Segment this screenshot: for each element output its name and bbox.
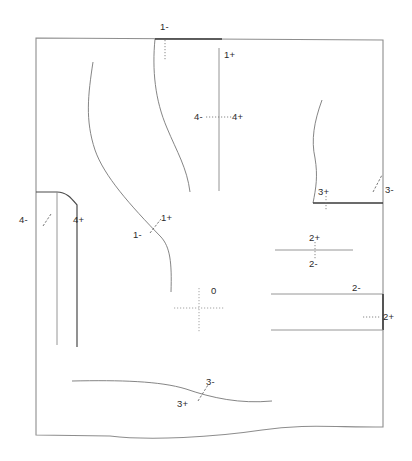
label-inner-1-plus: 1+ <box>161 213 172 223</box>
label-inner-1-minus: 1- <box>133 230 142 240</box>
label-bottom-3-plus: 3+ <box>177 399 188 409</box>
label-left-4-minus: 4- <box>19 215 28 225</box>
right-3-minus-tick-icon <box>373 175 382 192</box>
label-right-2-minus: 2- <box>309 259 318 269</box>
technical-diagram: 1- 1+ 4- 4+ 4- 4+ 1- 1+ 3+ 3- 2+ 2- 2- 2… <box>0 0 412 461</box>
bottom-wave-curve <box>72 381 272 402</box>
label-mid-4-plus: 4+ <box>232 112 243 122</box>
label-low-2-plus: 2+ <box>383 312 394 322</box>
left-s-curve <box>88 62 171 292</box>
diagram-canvas <box>0 0 412 461</box>
label-right-3-minus: 3- <box>385 185 394 195</box>
label-low-2-minus: 2- <box>352 283 361 293</box>
left-step-outline <box>36 192 77 347</box>
label-top-1-minus: 1- <box>160 22 169 32</box>
label-right-2-plus: 2+ <box>309 233 320 243</box>
label-top-1-plus: 1+ <box>224 50 235 60</box>
label-origin-zero: 0 <box>211 286 216 296</box>
label-bottom-3-minus: 3- <box>206 377 215 387</box>
center-s-curve <box>154 39 190 192</box>
left-4-pair-tick-icon <box>43 214 51 226</box>
label-right-3-plus: 3+ <box>318 187 329 197</box>
label-mid-4-minus: 4- <box>194 112 203 122</box>
label-left-4-plus: 4+ <box>73 215 84 225</box>
